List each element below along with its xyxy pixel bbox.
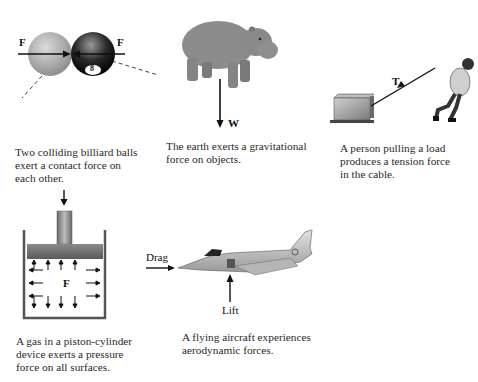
force-label-right: F [117,36,124,48]
aircraft-panel: Drag Lift A flying aircraft experiences … [140,220,340,380]
aircraft-illustration [140,220,340,310]
weight-label: W [228,117,239,129]
piston-caption: A gas in a piston-cylinder device exerts… [16,335,132,374]
hippo-illustration [160,0,320,130]
piston-cylinder-illustration [0,190,160,320]
billiard-panel: F F 8 Two colliding billiard balls exert… [0,0,160,190]
drag-label: Drag [146,251,168,263]
pressure-force-label: F [63,277,70,289]
tension-illustration [320,50,478,140]
tension-label: T [392,75,399,87]
hippo-caption: The earth exerts a gravitational force o… [166,140,307,166]
billiard-caption: Two colliding billiard balls exert a con… [15,146,138,185]
ball-number: 8 [90,64,94,73]
aircraft-caption: A flying aircraft experiences aerodynami… [182,331,311,357]
piston-panel: F A gas in a piston-cylinder device exer… [0,190,160,382]
hippo-panel: W The earth exerts a gravitational force… [160,0,320,190]
billiard-balls-illustration [0,0,160,110]
tension-caption: A person pulling a load produces a tensi… [340,142,450,181]
lift-label: Lift [222,304,239,316]
force-label-left: F [19,36,26,48]
tension-panel: T A person pulling a load produces a ten… [320,50,478,190]
